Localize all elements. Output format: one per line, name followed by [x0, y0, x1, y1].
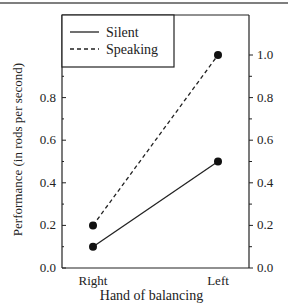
- right-tick-label: 0.4: [257, 175, 274, 190]
- right-tick-label: 0.8: [257, 90, 273, 105]
- left-tick-label: 0.6: [40, 132, 57, 147]
- x-axis-label: Hand of balancing: [100, 288, 203, 303]
- series-line-speaking: [93, 55, 218, 225]
- legend-label: Speaking: [106, 42, 158, 57]
- data-point: [89, 221, 97, 229]
- right-tick-label: 0.0: [257, 260, 273, 275]
- left-tick-label: 0.2: [40, 217, 56, 232]
- data-point: [89, 243, 97, 251]
- line-chart: 0.00.20.40.60.80.00.20.40.60.81.0RightLe…: [0, 0, 288, 303]
- right-tick-label: 1.0: [257, 47, 273, 62]
- right-tick-label: 0.6: [257, 132, 274, 147]
- left-tick-label: 0.4: [40, 175, 57, 190]
- data-point: [214, 51, 222, 59]
- right-tick-label: 0.2: [257, 217, 273, 232]
- series-line-silent: [93, 162, 218, 247]
- data-point: [214, 158, 222, 166]
- legend-box: [62, 15, 174, 67]
- left-tick-label: 0.0: [40, 260, 56, 275]
- legend-label: Silent: [106, 25, 139, 40]
- x-tick-label: Right: [79, 273, 108, 288]
- x-tick-label: Left: [207, 273, 229, 288]
- left-tick-label: 0.8: [40, 90, 56, 105]
- y-axis-label: Performance (in rods per second): [10, 63, 25, 236]
